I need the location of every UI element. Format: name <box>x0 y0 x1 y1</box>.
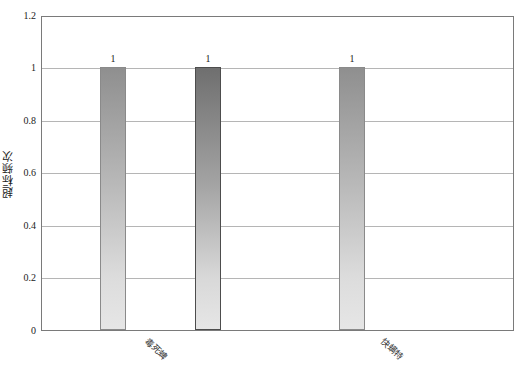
bar-1 <box>100 67 126 330</box>
bar-2-value-label: 1 <box>198 54 218 64</box>
plot-area: 1 1 1 <box>41 16 514 331</box>
bar-3-value-label: 1 <box>342 54 362 64</box>
y-tick-1: 1 <box>6 63 36 73</box>
bar-3 <box>339 67 365 330</box>
bar-2 <box>195 67 221 330</box>
y-tick-0: 0 <box>6 326 36 336</box>
y-tick-0.8: 0.8 <box>6 116 36 126</box>
y-tick-0.2: 0.2 <box>6 273 36 283</box>
x-label-2: 快螨特 <box>379 336 405 362</box>
y-tick-0.6: 0.6 <box>6 168 36 178</box>
y-tick-0.4: 0.4 <box>6 221 36 231</box>
bar-1-value-label: 1 <box>103 54 123 64</box>
y-tick-1.2: 1.2 <box>6 11 36 21</box>
x-label-1: 毒死蜱 <box>143 336 169 362</box>
